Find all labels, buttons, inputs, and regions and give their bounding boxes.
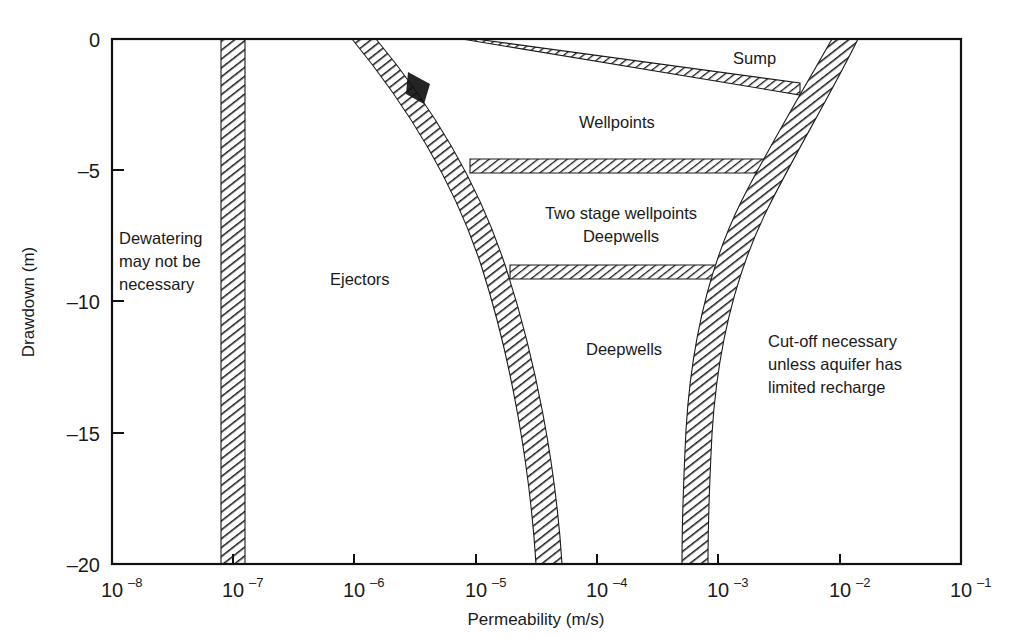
region-label-line: limited recharge	[768, 378, 885, 396]
x-tick-exponent: –1	[977, 575, 991, 590]
left-vertical-band-1e-7-band	[221, 39, 245, 564]
region-label-line: Cut-off necessary	[768, 332, 898, 350]
x-tick-exponent: –5	[492, 575, 506, 590]
wellpoints-two-stage-boundary-band	[470, 159, 766, 173]
region-label-deepwells: Deepwells	[586, 340, 662, 358]
x-tick-exponent: –7	[249, 575, 263, 590]
region-label-ejectors: Ejectors	[330, 270, 390, 288]
region-label-line: may not be	[119, 252, 201, 270]
region-label-line: Dewatering	[119, 229, 202, 247]
x-tick-exponent: –4	[613, 575, 627, 590]
y-tick-label-4: –20	[67, 554, 100, 576]
x-axis-title: Permeability (m/s)	[468, 610, 605, 629]
region-label-sump: Sump	[733, 49, 776, 67]
x-tick-base: 10	[343, 579, 365, 601]
region-label-line: necessary	[119, 275, 195, 293]
region-label-line: Two stage wellpoints	[545, 204, 697, 222]
y-tick-label-1: –5	[78, 160, 100, 182]
region-label-line: Ejectors	[330, 270, 390, 288]
x-tick-base: 10	[950, 579, 972, 601]
region-label-line: Wellpoints	[579, 113, 655, 131]
x-tick-exponent: –2	[856, 575, 870, 590]
two-stage-deepwells-boundary-band	[510, 265, 730, 279]
x-tick-exponent: –3	[734, 575, 748, 590]
region-label-line: unless aquifer has	[768, 355, 902, 373]
x-tick-base: 10	[829, 579, 851, 601]
dewatering-method-selection-chart: 10 –8 10 –7 10 –6 10 –5 10 –4 10 –3	[0, 0, 1018, 644]
x-tick-exponent: –6	[370, 575, 384, 590]
x-tick-base: 10	[707, 579, 729, 601]
region-label-line: Deepwells	[583, 227, 659, 245]
y-tick-label-2: –10	[67, 291, 100, 313]
region-label-cut-off-necessary: Cut-off necessary unless aquifer has lim…	[768, 332, 902, 396]
region-label-dewatering-may-not-be-necessary: Dewatering may not be necessary	[119, 229, 202, 293]
y-axis-title: Drawdown (m)	[19, 247, 38, 358]
x-tick-base: 10	[586, 579, 608, 601]
x-tick-base: 10	[101, 579, 123, 601]
x-tick-base: 10	[465, 579, 487, 601]
region-label-line: Deepwells	[586, 340, 662, 358]
y-tick-label-3: –15	[67, 423, 100, 445]
x-tick-base: 10	[222, 579, 244, 601]
region-label-line: Sump	[733, 49, 776, 67]
region-label-wellpoints: Wellpoints	[579, 113, 655, 131]
y-tick-label-0: 0	[89, 29, 100, 51]
x-tick-exponent: –8	[128, 575, 142, 590]
chart-svg: 10 –8 10 –7 10 –6 10 –5 10 –4 10 –3	[0, 0, 1018, 644]
